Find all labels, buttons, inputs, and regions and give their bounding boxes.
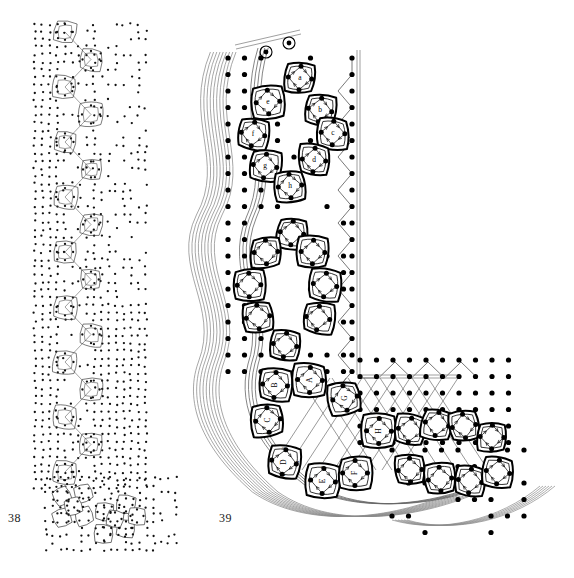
figure-38-number: 38	[8, 511, 21, 526]
fig39-circled-markers	[260, 37, 295, 58]
svg-text:d: d	[312, 155, 316, 164]
figure-39: abcdefghABCDEFGH 12341234123412341234123…	[189, 30, 555, 535]
fig38-lattice	[52, 21, 103, 485]
svg-text:D: D	[279, 459, 288, 465]
fig38-dot-field	[32, 22, 148, 490]
svg-text:B: B	[270, 382, 279, 387]
figure-39-number: 39	[219, 511, 232, 526]
svg-text:G: G	[340, 395, 349, 401]
svg-text:A: A	[305, 377, 314, 383]
svg-text:F: F	[350, 471, 359, 475]
svg-text:g: g	[263, 161, 267, 170]
plate-page: abcdefghABCDEFGH 12341234123412341234123…	[0, 0, 574, 578]
figure-plate-svg: abcdefghABCDEFGH 12341234123412341234123…	[0, 0, 574, 578]
figure-38	[32, 21, 178, 552]
svg-text:h: h	[288, 181, 292, 190]
svg-text:H: H	[374, 428, 383, 434]
svg-text:C: C	[263, 417, 272, 422]
svg-text:E: E	[318, 478, 327, 483]
svg-text:b: b	[318, 105, 322, 114]
